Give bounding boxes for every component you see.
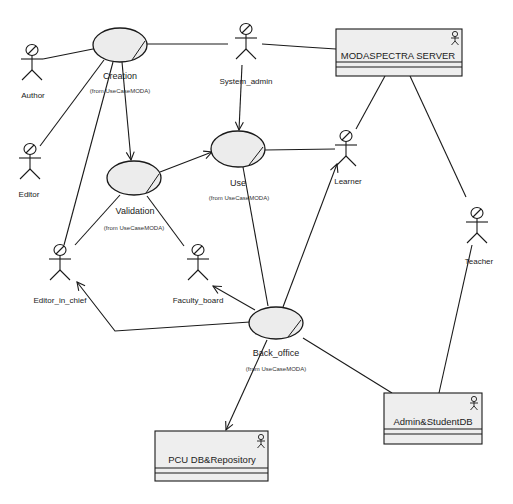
system-pcu-db-repository[interactable]: PCU DB&Repository xyxy=(155,431,268,481)
use-case-ellipse[interactable] xyxy=(249,307,303,339)
actor-icon xyxy=(235,24,257,60)
line-use-learner[interactable] xyxy=(265,149,335,150)
system-admin-student-db[interactable]: Admin&StudentDB xyxy=(384,393,482,444)
line-system-admin-use[interactable] xyxy=(239,65,242,130)
system-label: Admin&StudentDB xyxy=(393,416,472,427)
actor-system-admin[interactable]: System_admin xyxy=(220,24,273,87)
actor-icon xyxy=(19,144,41,180)
line-server-learner[interactable] xyxy=(356,76,385,129)
use-case-use[interactable]: Use (from UseCaseMODA) xyxy=(209,131,269,201)
use-case-diagram: Creation (from UseCaseMODA) Validation (… xyxy=(0,0,513,504)
line-validation-faculty-board[interactable] xyxy=(147,196,184,246)
actor-icon xyxy=(49,245,71,281)
use-case-package: (from UseCaseMODA) xyxy=(209,195,269,201)
use-case-ellipse[interactable] xyxy=(211,131,265,167)
line-author-creation[interactable] xyxy=(43,49,93,59)
actor-icon xyxy=(21,45,43,81)
line-back-office-editor-in-chief[interactable] xyxy=(77,282,250,331)
use-case-ellipse[interactable] xyxy=(107,161,161,195)
actor-label: Editor xyxy=(19,190,40,199)
line-back-office-learner[interactable] xyxy=(283,164,337,307)
use-case-creation[interactable]: Creation (from UseCaseMODA) xyxy=(90,28,150,94)
associations xyxy=(40,44,472,430)
line-server-teacher[interactable] xyxy=(410,76,466,197)
use-case-back-office[interactable]: Back_office (from UseCaseMODA) xyxy=(246,307,306,372)
line-use-back-office[interactable] xyxy=(243,167,268,306)
actor-author[interactable]: Author xyxy=(21,45,45,101)
actor-label: System_admin xyxy=(220,77,273,86)
actor-icon xyxy=(466,208,488,244)
actor-label: Faculty_board xyxy=(173,296,224,305)
use-case-package: (from UseCaseMODA) xyxy=(104,225,164,231)
actor-icon xyxy=(187,245,209,281)
use-case-ellipse[interactable] xyxy=(93,28,147,62)
actor-editor-in-chief[interactable]: Editor_in_chief xyxy=(34,245,88,306)
use-case-package: (from UseCaseMODA) xyxy=(246,366,306,372)
actor-label: Editor_in_chief xyxy=(34,296,88,305)
actor-label: Learner xyxy=(334,177,362,186)
actor-icon xyxy=(335,131,357,167)
actor-faculty-board[interactable]: Faculty_board xyxy=(173,245,224,306)
use-case-package: (from UseCaseMODA) xyxy=(90,88,150,94)
use-case-validation[interactable]: Validation (from UseCaseMODA) xyxy=(104,161,164,231)
use-case-label: Creation xyxy=(103,71,137,81)
use-case-label: Back_office xyxy=(253,348,299,358)
actor-editor[interactable]: Editor xyxy=(19,144,41,200)
system-label: PCU DB&Repository xyxy=(168,454,256,465)
actor-label: Author xyxy=(21,91,45,100)
line-system-admin-server[interactable] xyxy=(262,44,336,49)
use-case-label: Validation xyxy=(116,206,155,216)
actor-teacher[interactable]: Teacher xyxy=(465,208,494,267)
line-back-office-admin-db[interactable] xyxy=(303,338,392,393)
actor-learner[interactable]: Learner xyxy=(334,131,362,187)
line-teacher-admin-db[interactable] xyxy=(439,245,472,393)
use-case-label: Use xyxy=(230,178,246,188)
actor-label: Teacher xyxy=(465,257,494,266)
system-modaspectra-server[interactable]: MODASPECTRA SERVER xyxy=(336,29,462,76)
system-label: MODASPECTRA SERVER xyxy=(341,50,456,61)
line-validation-use[interactable] xyxy=(160,152,212,172)
line-validation-editor-in-chief[interactable] xyxy=(75,195,120,245)
